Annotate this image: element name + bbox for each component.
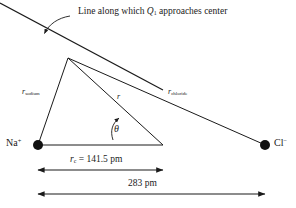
r-sodium-label: rsodium: [22, 88, 40, 97]
r-sodium-subscript: sodium: [25, 91, 40, 96]
r-sodium-segment: [38, 58, 68, 145]
r-label: r: [117, 93, 120, 101]
caption-text-post: approaches center: [157, 6, 228, 16]
chloride-ion-dot: [260, 140, 270, 150]
rc-value: = 141.5 pm: [76, 154, 122, 164]
sodium-charge: +: [18, 137, 22, 144]
diagram-figure: Line along which Q1 approaches center rs…: [0, 0, 296, 208]
caption-symbol-q: Q: [147, 6, 154, 16]
caption-text-pre: Line along which: [78, 6, 147, 16]
chloride-ion-label: Cl−: [274, 138, 287, 148]
r-chloride-label: rchloride: [168, 88, 187, 97]
chloride-charge: −: [283, 137, 287, 144]
r-symbol: r: [117, 92, 120, 101]
separation-dimension-label: 283 pm: [128, 179, 157, 189]
rc-dimension-label: rc = 141.5 pm: [70, 155, 122, 165]
approach-line-caption: Line along which Q1 approaches center: [78, 7, 227, 17]
r-chloride-segment: [68, 58, 263, 144]
diagram-canvas: [0, 0, 296, 208]
sodium-element-symbol: Na: [6, 137, 18, 148]
r-chloride-subscript: chloride: [171, 91, 187, 96]
theta-label: θ: [114, 124, 119, 134]
sodium-ion-dot: [33, 140, 43, 150]
caption-leader-arrow: [45, 16, 71, 34]
sodium-ion-label: Na+: [6, 138, 21, 148]
